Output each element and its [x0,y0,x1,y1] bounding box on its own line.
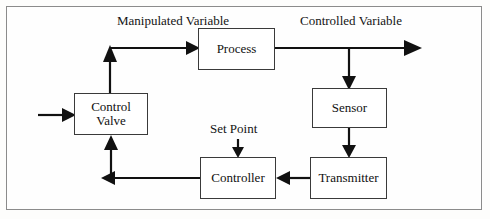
diagram-canvas: Control Valve Process Sensor Transmitter… [0,0,490,219]
wire-transmitter-to-controller [276,171,310,185]
label-set-point-line1: Set Point [210,121,257,136]
wire-controller-to-valve [101,135,200,185]
block-transmitter-label: Transmitter [318,171,378,185]
block-controller[interactable]: Controller [200,157,276,199]
block-control-valve-label-line1: Control [91,100,131,114]
wire-process-to-sensor [342,48,356,90]
label-controlled-variable: Controlled Variable [300,14,402,28]
label-manipulated-variable-line1: Manipulated [117,13,183,28]
block-sensor-label: Sensor [332,101,367,115]
block-control-valve-label-line2: Valve [91,114,131,128]
block-process-label: Process [217,42,257,56]
block-control-valve[interactable]: Control Valve [74,93,148,135]
label-manipulated-variable: Manipulated Variable [117,14,229,28]
wire-valve-to-process [103,41,200,93]
wire-setpoint-to-controller [232,139,244,158]
label-set-point: Set Point [210,122,257,136]
label-manipulated-variable-line2: Variable [186,13,229,28]
block-process[interactable]: Process [198,28,275,70]
wire-sensor-to-transmitter [342,128,356,158]
label-controlled-variable-line2: Variable [359,13,402,28]
block-controller-label: Controller [211,171,264,185]
block-transmitter[interactable]: Transmitter [310,157,387,199]
label-controlled-variable-line1: Controlled [300,13,356,28]
block-sensor[interactable]: Sensor [312,88,387,128]
wire-valve-input [38,108,76,122]
